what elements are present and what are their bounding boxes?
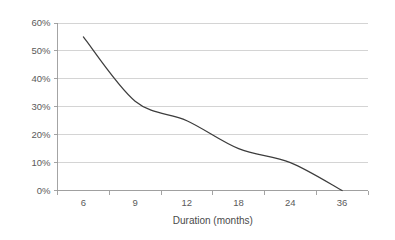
chart-container: 0%10%20%30%40%50%60% 6912182436 Duration… <box>0 0 395 240</box>
x-axis-title: Duration (months) <box>173 215 253 226</box>
y-axis-tick-label: 60% <box>31 17 51 28</box>
y-axis-tick-label: 30% <box>31 101 51 112</box>
x-axis-tick-label: 9 <box>132 197 137 208</box>
line-chart: 0%10%20%30%40%50%60% 6912182436 Duration… <box>0 0 395 240</box>
y-axis-tick-label: 20% <box>31 129 51 140</box>
x-axis-tick-label: 6 <box>81 197 86 208</box>
x-axis-tick-label: 12 <box>182 197 193 208</box>
y-axis-tick-label: 0% <box>37 185 51 196</box>
y-axis-tick-label: 10% <box>31 157 51 168</box>
y-axis-tick-label: 40% <box>31 73 51 84</box>
chart-background <box>0 0 395 240</box>
x-axis-tick-label: 36 <box>337 197 348 208</box>
x-axis-tick-label: 18 <box>233 197 244 208</box>
y-axis-tick-label: 50% <box>31 45 51 56</box>
x-axis-tick-label: 24 <box>285 197 296 208</box>
